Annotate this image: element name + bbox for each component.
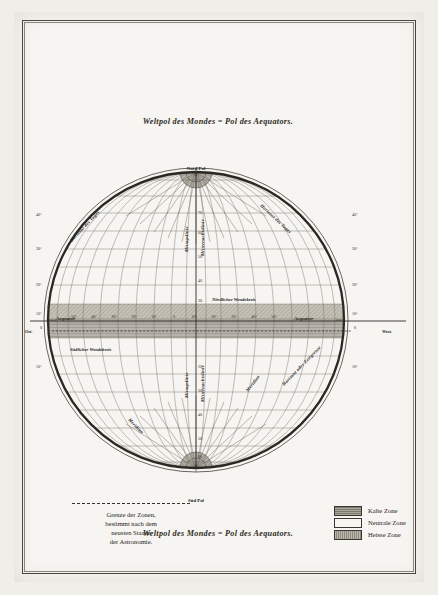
- legend-swatch-kalte: [334, 506, 362, 516]
- horizon-upper-right-label: Horizont des Tages: [259, 202, 293, 234]
- plate-page: Weltpol des Mondes = Pol des Aequators.: [0, 0, 438, 595]
- legend-item-neutrale: Neutrale Zone: [334, 518, 406, 528]
- equator-label-right: Aequator: [293, 316, 313, 321]
- svg-text:0: 0: [354, 325, 356, 330]
- svg-text:20°: 20°: [352, 282, 358, 287]
- svg-text:30: 30: [198, 298, 202, 303]
- legend-swatch-neutrale: [334, 518, 362, 528]
- svg-text:10°: 10°: [191, 314, 197, 319]
- svg-text:30°: 30°: [231, 314, 237, 319]
- legend-item-kalte: Kalte Zone: [334, 506, 406, 516]
- svg-text:30°: 30°: [36, 246, 42, 251]
- meridian-right-label: Mitternachtslinie: [200, 219, 205, 257]
- svg-text:0: 0: [40, 325, 42, 330]
- west-label: West.: [382, 329, 392, 334]
- svg-text:20°: 20°: [211, 314, 217, 319]
- svg-text:30°: 30°: [111, 314, 117, 319]
- tropic-north-label-right: Nördlicher Wendekreis: [211, 297, 256, 302]
- svg-text:50°: 50°: [71, 314, 77, 319]
- svg-text:10°: 10°: [151, 314, 157, 319]
- meridian-curve-right-label: Meridian: [244, 374, 261, 393]
- svg-text:10°: 10°: [36, 364, 42, 369]
- zone-bands: [22, 156, 414, 484]
- east-label: Ost.: [25, 329, 33, 334]
- meridian-left-label: Mittagslinie: [184, 226, 189, 253]
- svg-text:20°: 20°: [36, 282, 42, 287]
- latitude-scale-right: 30° 20° 10° 0 10° 40°: [352, 212, 358, 369]
- svg-text:10°: 10°: [352, 364, 358, 369]
- legend: Kalte Zone Neutrale Zone Heisse Zone: [334, 506, 406, 542]
- svg-text:60: 60: [198, 454, 202, 459]
- note-line-4: der Astronomie.: [58, 537, 204, 546]
- legend-swatch-heisse: [334, 530, 362, 540]
- note-line-1: Grenze der Zonen,: [58, 510, 204, 519]
- svg-text:10°: 10°: [36, 311, 42, 316]
- svg-text:50: 50: [198, 436, 202, 441]
- north-pole-label: Nord Pol: [187, 166, 206, 171]
- meridian-curve-left-label: Meridian: [127, 417, 145, 435]
- tropic-south-label-left: Südlicher Wendekreis: [70, 347, 112, 352]
- svg-text:40°: 40°: [251, 314, 257, 319]
- svg-text:40°: 40°: [352, 212, 358, 217]
- svg-text:40: 40: [198, 412, 202, 417]
- globe-diagram: Nord Pol Süd Pol Aequator Aequator Ost. …: [22, 20, 414, 572]
- meridian-lower-right-label: Mitternachtslinie: [200, 365, 205, 403]
- svg-text:30: 30: [198, 388, 202, 393]
- legend-item-heisse: Heisse Zone: [334, 530, 406, 540]
- svg-text:0: 0: [173, 314, 175, 319]
- svg-text:10°: 10°: [352, 311, 358, 316]
- note-dashed-rule: [72, 503, 190, 504]
- zone-note: Grenze der Zonen, bestimmt nach dem neus…: [58, 503, 204, 546]
- horizon-upper-left-label: Horizont des Tages: [68, 210, 100, 244]
- svg-text:40: 40: [198, 278, 202, 283]
- svg-text:50°: 50°: [271, 314, 277, 319]
- svg-text:50: 50: [198, 254, 202, 259]
- legend-label-neutrale: Neutrale Zone: [368, 519, 406, 526]
- latitude-scale-left: 30° 20° 10° 0 10° 40°: [36, 212, 42, 369]
- svg-text:40°: 40°: [91, 314, 97, 319]
- meridian-lower-left-label: Mittagslinie: [184, 372, 189, 399]
- svg-text:60: 60: [198, 230, 202, 235]
- plate-content: Weltpol des Mondes = Pol des Aequators.: [22, 20, 414, 572]
- legend-label-kalte: Kalte Zone: [368, 507, 397, 514]
- svg-text:20°: 20°: [131, 314, 137, 319]
- svg-text:30°: 30°: [352, 246, 358, 251]
- svg-text:40°: 40°: [36, 212, 42, 217]
- horizon-lower-right-label: Horizont oder Zeitgrenze: [280, 345, 321, 388]
- svg-text:20: 20: [198, 364, 202, 369]
- svg-text:70: 70: [198, 210, 202, 215]
- note-line-2: bestimmt nach dem: [58, 519, 204, 528]
- note-line-3: neusten Staade: [58, 528, 204, 537]
- legend-label-heisse: Heisse Zone: [368, 531, 401, 538]
